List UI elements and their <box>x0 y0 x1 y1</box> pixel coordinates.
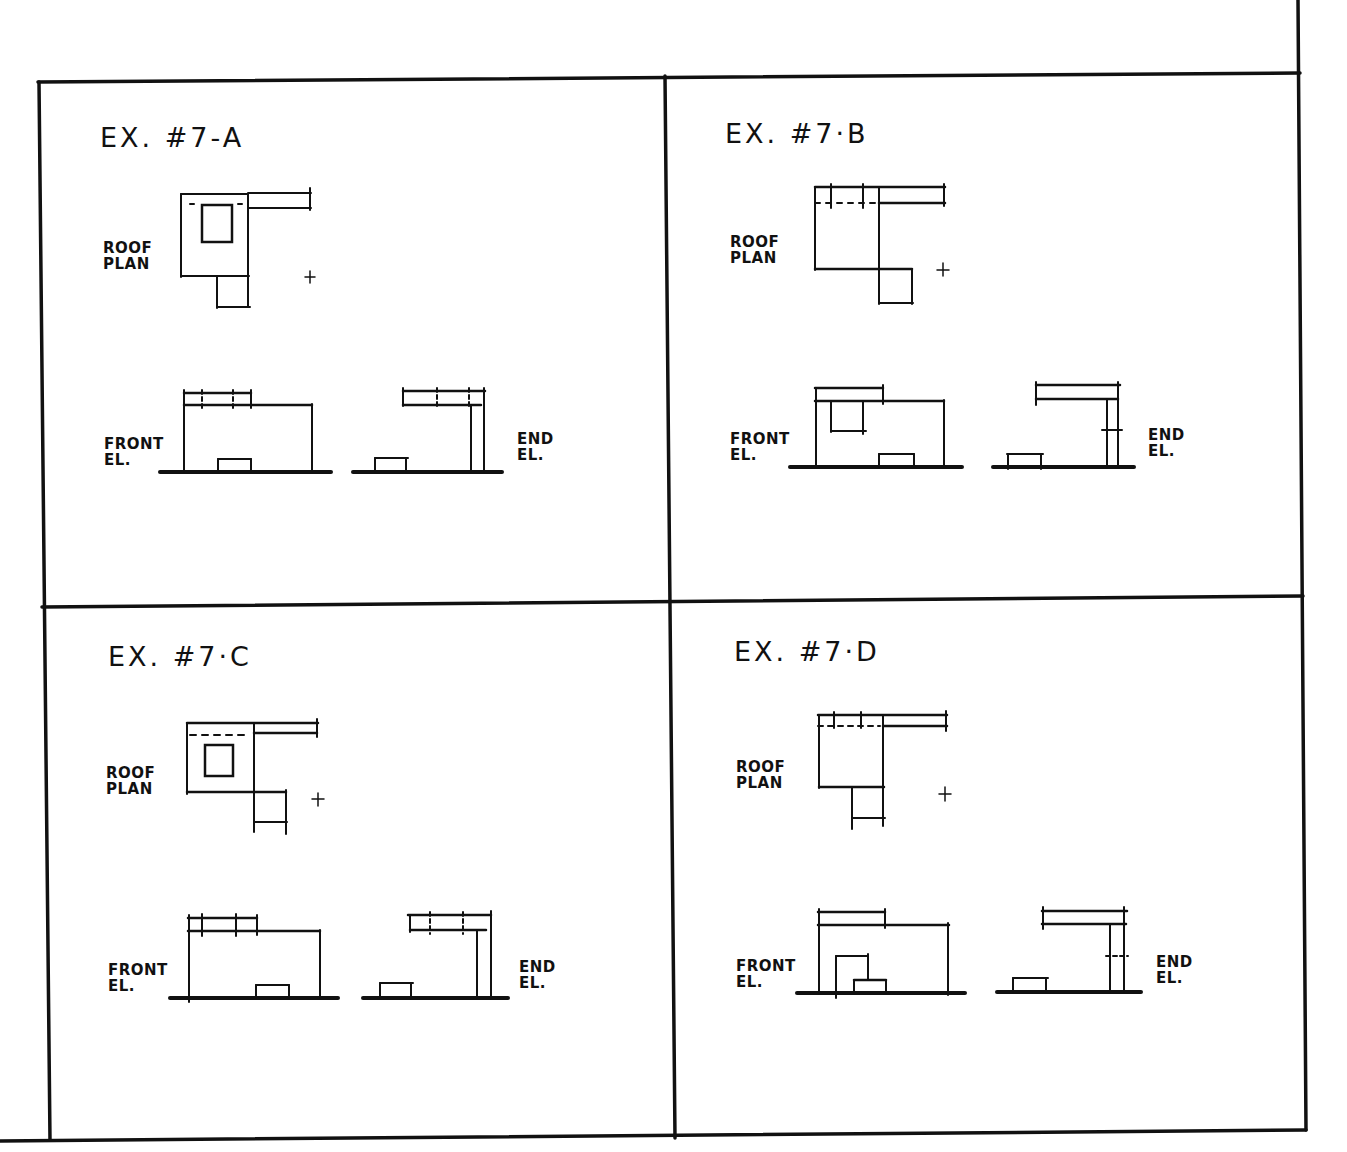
front-elevation-drawing <box>797 909 965 998</box>
roof-plan-drawing <box>818 711 951 829</box>
panel-7d-drawing <box>0 0 1347 1152</box>
sketch-sheet: EX. #7-A ROOF PLAN FRONT EL. END EL. <box>0 0 1347 1152</box>
end-elevation-drawing <box>997 907 1141 992</box>
